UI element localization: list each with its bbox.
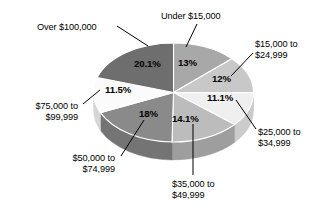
leader-line-over-100000 bbox=[117, 26, 148, 46]
category-label-under-15000: Under $15,000 bbox=[161, 11, 221, 22]
pct-label-35000-49999: 14.1% bbox=[172, 113, 199, 124]
pct-label-15000-24999: 12% bbox=[212, 73, 231, 84]
pct-label-under-15000: 13% bbox=[178, 57, 197, 68]
pie-chart-figure: 13% 12% 11.1% 14.1% 18% 11.5% 20.1% Unde… bbox=[0, 0, 324, 208]
category-label-35000-49999: $35,000 to $49,999 bbox=[172, 179, 214, 201]
pct-label-over-100000: 20.1% bbox=[134, 58, 161, 69]
leader-line-under-15000 bbox=[186, 24, 197, 47]
category-label-25000-34999: $25,000 to $34,999 bbox=[258, 127, 300, 149]
pct-label-50000-74999: 18% bbox=[139, 108, 158, 119]
pct-label-75000-99999: 11.5% bbox=[105, 84, 131, 95]
pct-label-25000-34999: 11.1% bbox=[207, 92, 233, 103]
category-label-15000-24999: $15,000 to $24,999 bbox=[255, 39, 297, 61]
category-label-75000-99999: $75,000 to $99,999 bbox=[0, 101, 78, 123]
category-label-over-100000: Over $100,000 bbox=[37, 22, 96, 33]
category-label-50000-74999: $50,000 to $74,999 bbox=[0, 153, 115, 175]
